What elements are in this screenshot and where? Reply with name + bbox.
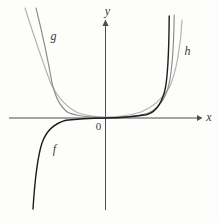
curve-label-g: g [51, 29, 57, 43]
power-curves-figure: y x 0 f g h [0, 0, 218, 223]
figure-container: y x 0 f g h [0, 0, 218, 223]
y-axis-label: y [104, 4, 111, 18]
y-axis-arrow-icon [102, 20, 108, 27]
origin-label: 0 [96, 120, 102, 132]
curve-label-h: h [185, 44, 191, 58]
x-axis-label: x [205, 110, 212, 124]
x-axis-arrow-icon [197, 115, 203, 121]
curve-label-f: f [53, 142, 58, 156]
